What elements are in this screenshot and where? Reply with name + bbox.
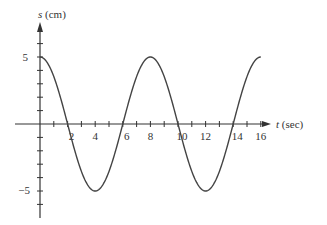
y-axis-arrow-icon: [37, 22, 43, 32]
axes: [15, 32, 262, 218]
x-axis-arrow-icon: [262, 121, 271, 127]
svg-text:6: 6: [124, 130, 130, 142]
svg-text:4: 4: [92, 130, 98, 142]
x-axis-label: t (sec): [276, 118, 304, 131]
cosine-chart: 246810121416 5 −5 s (cm) t (sec): [0, 0, 327, 225]
svg-text:12: 12: [200, 130, 211, 142]
svg-text:8: 8: [148, 130, 154, 142]
svg-text:14: 14: [232, 130, 244, 142]
y-tick-label-neg5: −5: [18, 184, 30, 196]
x-tick-labels: 246810121416: [69, 130, 267, 142]
svg-text:16: 16: [255, 130, 267, 142]
y-tick-label-5: 5: [23, 51, 29, 63]
y-axis-label: s (cm): [38, 8, 66, 21]
